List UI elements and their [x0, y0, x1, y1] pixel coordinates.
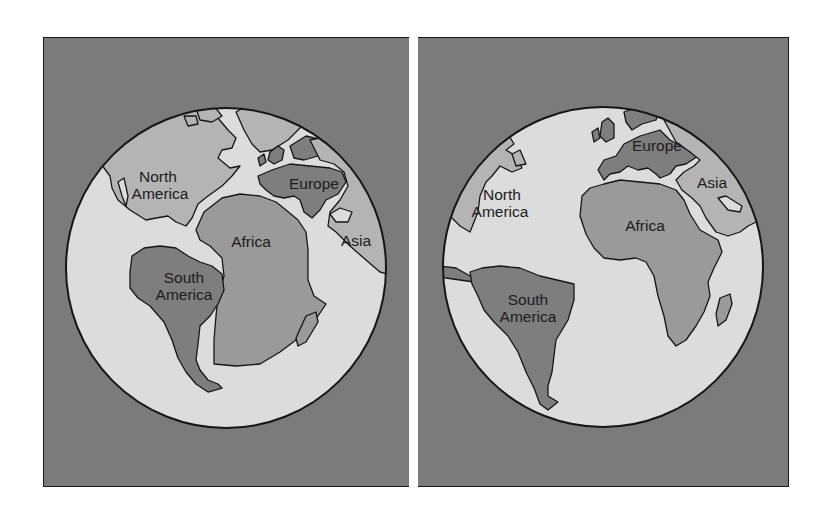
panel-past: North America Europe Africa Asia South A… — [43, 37, 409, 487]
label-asia: Asia — [697, 174, 728, 191]
label-south-america-1: South — [508, 291, 549, 308]
globe-present: North America Europe Africa Asia South A… — [418, 37, 789, 487]
label-north-america-2: America — [132, 185, 189, 202]
label-north-america-2: America — [472, 203, 529, 220]
label-africa: Africa — [231, 233, 271, 250]
panel-divider — [409, 37, 418, 487]
globe-past: North America Europe Africa Asia South A… — [43, 37, 409, 487]
label-south-america-1: South — [164, 269, 205, 286]
panel-present: North America Europe Africa Asia South A… — [418, 37, 789, 487]
label-north-america-1: North — [483, 186, 521, 203]
label-europe: Europe — [289, 175, 339, 192]
label-africa: Africa — [625, 217, 665, 234]
label-south-america-2: America — [156, 286, 213, 303]
label-europe: Europe — [632, 137, 682, 154]
label-south-america-2: America — [500, 308, 557, 325]
label-north-america-1: North — [139, 168, 177, 185]
label-asia: Asia — [341, 232, 372, 249]
